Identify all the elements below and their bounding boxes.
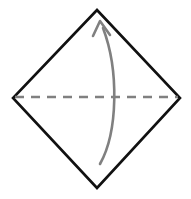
- origami-diagram: [0, 0, 191, 199]
- diagram-canvas: [0, 0, 191, 199]
